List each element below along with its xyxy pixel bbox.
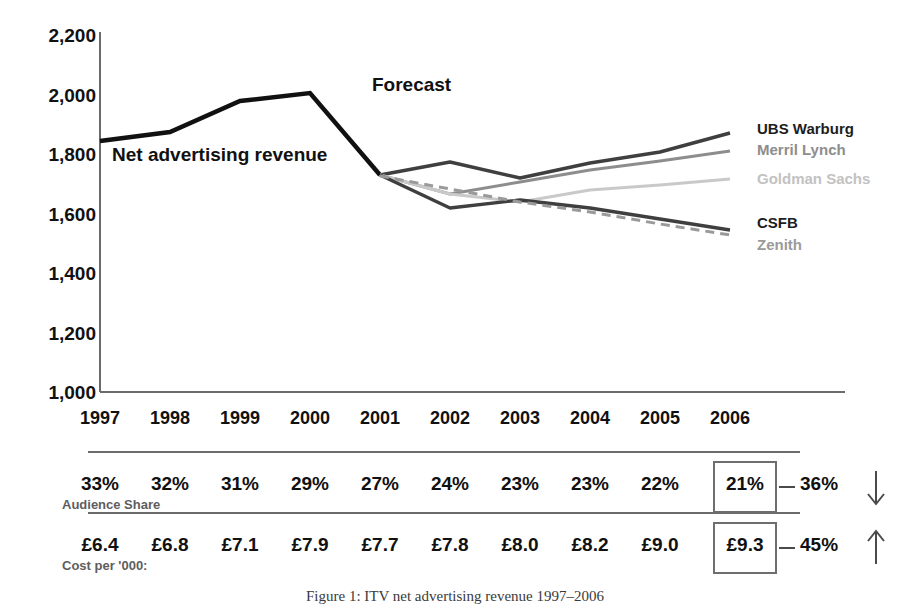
delta-audience-share: 36% [800,473,838,495]
series-merril-lynch [380,151,730,194]
table-cell-audience-1997: 33% [65,473,135,495]
legend-label-merril-lynch: Merril Lynch [757,141,846,158]
x-tick-label-2002: 2002 [415,408,485,429]
y-tick-label: 2,200 [14,25,96,47]
table-cell-cost-2005: £9.0 [625,534,695,556]
y-tick-label: 1,000 [14,382,96,404]
x-tick-label-1998: 1998 [135,408,205,429]
table-cell-cost-1997: £6.4 [65,534,135,556]
arrow-down-icon [868,471,884,504]
table-cell-audience-1998: 32% [135,473,205,495]
x-tick-label-1997: 1997 [65,408,135,429]
table-cell-audience-2000: 29% [275,473,345,495]
table-cell-cost-2003: £8.0 [485,534,555,556]
table-cell-cost-2001: £7.7 [345,534,415,556]
legend-label-goldman-sachs: Goldman Sachs [757,170,870,187]
y-tick-label: 1,200 [14,323,96,345]
legend-label-csfb: CSFB [757,214,798,231]
table-cell-audience-2001: 27% [345,473,415,495]
table-cell-audience-2002: 24% [415,473,485,495]
table-cell-audience-2005: 22% [625,473,695,495]
forecast-annotation: Forecast [372,74,451,96]
y-tick-label: 1,600 [14,204,96,226]
line-chart [0,0,910,605]
y-tick-label: 1,800 [14,144,96,166]
x-tick-label-2004: 2004 [555,408,625,429]
table-cell-cost-1999: £7.1 [205,534,275,556]
net-advertising-revenue-annotation: Net advertising revenue [112,144,327,166]
table-cell-audience-2003: 23% [485,473,555,495]
table-row-caption-cost-per-thousand: Cost per '000: [62,558,147,573]
table-cell-cost-2004: £8.2 [555,534,625,556]
arrow-up-icon [868,531,884,564]
chart-axes [100,32,845,392]
y-tick-label: 1,400 [14,263,96,285]
table-cell-cost-1998: £6.8 [135,534,205,556]
table-cell-audience-2004: 23% [555,473,625,495]
highlight-box-audience-2006 [713,461,777,513]
x-tick-label-2006: 2006 [695,408,765,429]
x-tick-label-2000: 2000 [275,408,345,429]
figure-container: 2,200 2,000 1,800 1,600 1,400 1,200 1,00… [0,0,910,605]
figure-caption: Figure 1: ITV net advertising revenue 19… [0,588,910,605]
legend-label-ubs-warburg: UBS Warburg [757,120,854,137]
table-cell-audience-1999: 31% [205,473,275,495]
delta-cost-per-thousand: 45% [800,534,838,556]
x-tick-label-2003: 2003 [485,408,555,429]
x-tick-label-2001: 2001 [345,408,415,429]
x-tick-label-1999: 1999 [205,408,275,429]
table-row-caption-audience-share: Audience Share [62,497,160,512]
legend-label-zenith: Zenith [757,236,802,253]
series-ubs-warburg [380,133,730,178]
highlight-box-cost-2006 [713,522,777,574]
x-tick-label-2005: 2005 [625,408,695,429]
y-tick-label: 2,000 [14,85,96,107]
table-cell-cost-2000: £7.9 [275,534,345,556]
table-cell-cost-2002: £7.8 [415,534,485,556]
